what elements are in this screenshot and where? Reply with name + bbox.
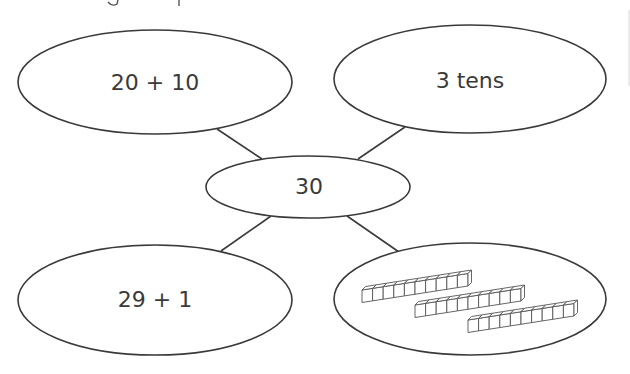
node-center: 30 bbox=[206, 156, 410, 218]
connector-top-left bbox=[217, 129, 262, 159]
node-center-label: 30 bbox=[295, 174, 323, 199]
node-top-right: 3 tens bbox=[334, 25, 606, 133]
node-top-right-label: 3 tens bbox=[436, 68, 505, 93]
node-top-left: 20 + 10 bbox=[18, 30, 292, 134]
node-top-left-label: 20 + 10 bbox=[111, 70, 199, 95]
node-bottom-right bbox=[334, 243, 606, 355]
connector-bottom-right bbox=[347, 216, 399, 252]
connector-top-right bbox=[358, 127, 405, 159]
cropped-heading-fragment bbox=[108, 0, 179, 6]
node-bottom-left: 29 + 1 bbox=[18, 245, 292, 355]
connector-bottom-left bbox=[221, 216, 271, 251]
node-bottom-left-label: 29 + 1 bbox=[118, 287, 192, 312]
number-web-diagram: 20 + 10 3 tens 29 + 1 30 bbox=[0, 0, 630, 374]
